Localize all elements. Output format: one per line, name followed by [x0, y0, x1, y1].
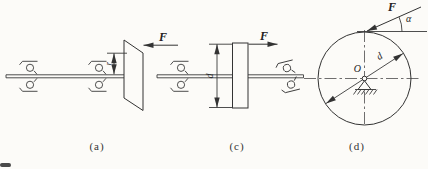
shaft-c	[157, 75, 304, 78]
subfigure-c-caption: (c)	[229, 140, 244, 153]
figure-canvas: r F (a) d	[0, 0, 428, 169]
disc-oblique-a	[124, 40, 143, 111]
subfigure-d-caption: (d)	[349, 140, 365, 153]
subfigure-d: F α d O	[304, 0, 427, 153]
shaft-a	[6, 75, 124, 78]
center-label: O	[354, 63, 361, 74]
bearing-icon	[279, 76, 300, 93]
force-label: F	[158, 30, 167, 44]
force-label: F	[259, 29, 268, 43]
angle-label: α	[406, 13, 412, 24]
scan-artifact	[0, 163, 11, 167]
force-label: F	[387, 0, 396, 14]
angle-arc	[399, 17, 402, 31]
radius-dimension-a: r	[103, 53, 127, 74]
force-arrow-d: F	[367, 0, 421, 31]
diameter-label: d	[204, 73, 215, 79]
ground-hatching	[354, 90, 378, 95]
subfigure-c: d F (c)	[157, 29, 304, 153]
bearing-icon	[171, 78, 189, 91]
force-arrow-c: F	[249, 29, 278, 44]
diameter-label: d	[374, 50, 385, 62]
diameter-dimension-c: d	[204, 44, 233, 107]
radius-label: r	[103, 61, 113, 65]
bearing-pair-right-c	[275, 60, 300, 93]
subfigure-a-caption: (a)	[89, 140, 104, 153]
bearing-icon	[89, 78, 107, 91]
bearing-icon	[20, 61, 38, 74]
force-arrow-a: F	[144, 30, 179, 45]
figure: r F (a) d	[0, 0, 428, 169]
bearing-icon	[20, 78, 38, 91]
bearing-icon	[171, 61, 189, 74]
disc-rect-c	[233, 43, 249, 108]
subfigure-a: r F (a)	[6, 30, 178, 153]
